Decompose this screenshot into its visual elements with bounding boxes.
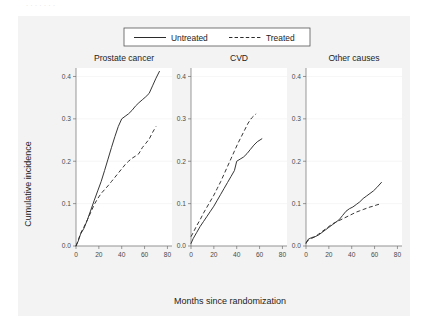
figure-root: . . . . . . . Untreated Treated Cumulati… [0, 0, 426, 331]
figure-canvas: Untreated Treated Cumulative incidence M… [18, 16, 410, 316]
y-tick-label: 0.4 [62, 73, 71, 80]
x-tick-label: 80 [164, 251, 172, 258]
panel-title: Other causes [328, 53, 379, 63]
y-tick-label: 0.2 [292, 158, 301, 165]
x-tick-label: 60 [371, 251, 379, 258]
y-tick-label: 0.0 [292, 242, 301, 249]
panel-title: Prostate cancer [94, 53, 154, 63]
plot-area-background [306, 68, 402, 246]
x-tick-label: 60 [256, 251, 264, 258]
x-tick-label: 20 [325, 251, 333, 258]
x-axis-title: Months since randomization [174, 296, 286, 306]
x-tick-label: 40 [348, 251, 356, 258]
legend: Untreated Treated [124, 28, 310, 46]
panels-layer: Prostate cancer0.00.10.20.30.4020406080C… [62, 53, 402, 258]
y-tick-label: 0.3 [177, 115, 186, 122]
panel-title: CVD [230, 53, 248, 63]
y-tick-label: 0.1 [177, 200, 186, 207]
x-tick-label: 80 [279, 251, 287, 258]
y-tick-label: 0.1 [62, 200, 71, 207]
x-tick-label: 60 [141, 251, 149, 258]
y-tick-label: 0.0 [62, 242, 71, 249]
x-tick-label: 20 [210, 251, 218, 258]
y-tick-label: 0.0 [177, 242, 186, 249]
y-tick-label: 0.3 [292, 115, 301, 122]
x-tick-label: 0 [74, 251, 78, 258]
y-axis-title: Cumulative incidence [23, 141, 33, 227]
panel-2: CVD0.00.10.20.30.4020406080 [177, 53, 287, 258]
y-tick-label: 0.4 [177, 73, 186, 80]
x-tick-label: 0 [189, 251, 193, 258]
panel-1: Prostate cancer0.00.10.20.30.4020406080 [62, 53, 172, 258]
y-tick-label: 0.2 [62, 158, 71, 165]
x-tick-label: 20 [95, 251, 103, 258]
panel-3: Other causes0.00.10.20.30.4020406080 [292, 53, 402, 258]
y-tick-label: 0.1 [292, 200, 301, 207]
caption-sliver-text: . . . . . . . [0, 0, 426, 8]
legend-label-untreated: Untreated [171, 33, 208, 43]
x-tick-label: 80 [394, 251, 402, 258]
legend-label-treated: Treated [266, 33, 295, 43]
plot-area-background [76, 68, 172, 246]
cumulative-incidence-chart: Untreated Treated Cumulative incidence M… [18, 16, 410, 316]
y-tick-label: 0.4 [292, 73, 301, 80]
y-tick-label: 0.3 [62, 115, 71, 122]
x-tick-label: 0 [304, 251, 308, 258]
x-tick-label: 40 [233, 251, 241, 258]
x-tick-label: 40 [118, 251, 126, 258]
y-tick-label: 0.2 [177, 158, 186, 165]
